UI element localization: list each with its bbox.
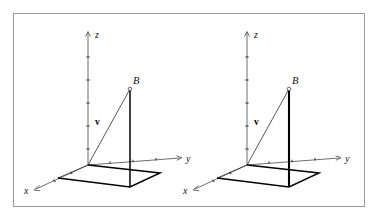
right-base-edge-origin-to-x — [217, 165, 247, 178]
right-vector-v-label: v — [254, 117, 259, 127]
left-diagram: z y x B v — [23, 29, 191, 196]
right-point-b-label: B — [292, 75, 299, 86]
diagram-canvas: z y x B v — [0, 0, 378, 220]
left-x-axis-label: x — [23, 185, 29, 196]
right-point-b-marker — [287, 87, 291, 91]
left-base-edge-origin-to-x — [58, 165, 88, 178]
figure-root: z y x B v — [0, 0, 378, 220]
left-base-parallelogram — [58, 165, 160, 187]
right-y-axis-label: y — [344, 153, 350, 164]
right-base-parallelogram — [217, 165, 319, 187]
left-point-b-marker — [128, 87, 132, 91]
right-diagram: z y x B v — [182, 29, 350, 196]
left-point-b-label: B — [133, 75, 140, 86]
right-z-axis-label: z — [253, 29, 258, 40]
left-vector-v-label: v — [95, 117, 100, 127]
right-vector-v-line — [247, 89, 289, 165]
left-z-axis-label: z — [94, 29, 99, 40]
right-y-axis-line — [247, 158, 339, 165]
right-x-axis-label: x — [182, 185, 188, 196]
left-y-axis-label: y — [185, 153, 191, 164]
left-vector-v-line — [88, 89, 130, 165]
left-y-axis-line — [88, 158, 180, 165]
